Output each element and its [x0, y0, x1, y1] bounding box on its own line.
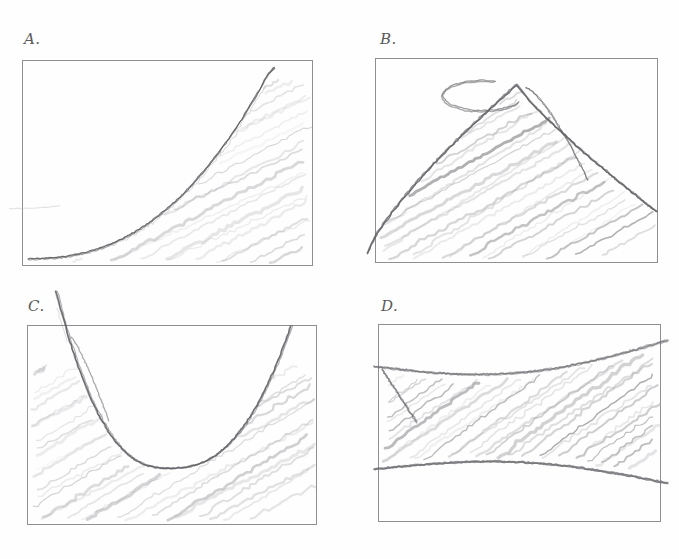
- panel-b-label: B.: [380, 30, 397, 48]
- panel-d-label: D.: [381, 297, 398, 315]
- panel-a-frame: [22, 60, 313, 266]
- panel-b-frame: [375, 58, 658, 263]
- worksheet-page: A. B. C. D.: [0, 0, 679, 559]
- panel-c-frame: [27, 325, 317, 525]
- panel-a-label: A.: [24, 30, 41, 48]
- panel-c-label: C.: [28, 297, 45, 315]
- panel-d-frame: [378, 324, 661, 522]
